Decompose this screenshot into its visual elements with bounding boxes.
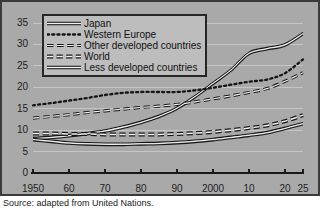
legend-item: Japan xyxy=(47,18,201,29)
chart-legend: JapanWestern EuropeOther developed count… xyxy=(42,14,207,77)
x-tick-label: 90 xyxy=(162,184,192,194)
legend-item: Less developed countries xyxy=(47,62,201,73)
y-tick-label: 30 xyxy=(4,39,28,49)
y-tick-label: 5 xyxy=(4,147,28,157)
legend-item: Western Europe xyxy=(47,29,201,40)
x-tick-label: 10 xyxy=(234,184,264,194)
x-tick-label: 70 xyxy=(90,184,120,194)
y-tick-label: 10 xyxy=(4,125,28,135)
chart-panel: 05101520253035 1950607080902000102025 Ja… xyxy=(0,0,320,196)
legend-item: World xyxy=(47,51,201,62)
legend-key-dashed-thin xyxy=(47,40,81,51)
legend-label: Japan xyxy=(84,18,111,29)
legend-label: Other developed countries xyxy=(84,40,201,51)
x-tick-label: 1950 xyxy=(18,184,48,194)
legend-item: Other developed countries xyxy=(47,40,201,51)
chart-screenshot: 05101520253035 1950607080902000102025 Ja… xyxy=(0,0,320,216)
y-tick-label: 15 xyxy=(4,104,28,114)
x-tick-label: 2000 xyxy=(198,184,228,194)
legend-label: World xyxy=(84,51,110,62)
legend-key-solid xyxy=(47,62,81,73)
x-tick-label: 25 xyxy=(288,184,318,194)
y-tick-label: 25 xyxy=(4,61,28,71)
legend-label: Western Europe xyxy=(84,29,156,40)
y-tick-label: 35 xyxy=(4,18,28,28)
legend-key-dashed-thick xyxy=(47,51,81,62)
y-tick-label: 20 xyxy=(4,82,28,92)
legend-key-solid xyxy=(47,18,81,29)
y-tick-label: 0 xyxy=(4,168,28,178)
source-note: Source: adapted from United Nations. xyxy=(3,198,154,208)
x-tick-label: 60 xyxy=(54,184,84,194)
legend-label: Less developed countries xyxy=(84,62,197,73)
legend-key-dotted xyxy=(47,29,81,40)
x-tick-label: 80 xyxy=(126,184,156,194)
